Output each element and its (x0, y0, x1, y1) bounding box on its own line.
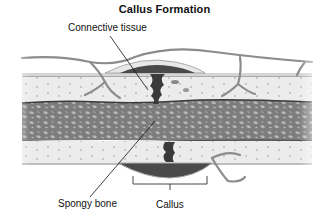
spongy-bone-band (22, 100, 312, 142)
bone-upper-layer (22, 73, 312, 103)
label-spongy-bone: Spongy bone (58, 198, 117, 209)
bone-illustration (0, 0, 329, 217)
label-connective-tissue: Connective tissue (68, 22, 147, 33)
label-callus: Callus (156, 199, 184, 210)
